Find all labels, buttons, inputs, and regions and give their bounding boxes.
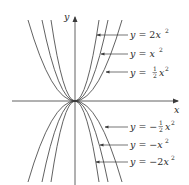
svg-text:2: 2 [159, 46, 163, 53]
svg-text:y = −: y = − [129, 121, 157, 132]
svg-text:1: 1 [159, 119, 163, 126]
label-half-x2: y = 1 2 x 2 [129, 65, 169, 79]
y-axis-label: y [63, 11, 70, 22]
label-x2: y = x 2 [129, 46, 163, 59]
svg-text:y = 2x: y = 2x [129, 29, 161, 40]
svg-text:2: 2 [165, 65, 169, 72]
svg-text:1: 1 [153, 65, 157, 72]
svg-text:y = −x: y = −x [129, 139, 163, 150]
svg-text:2: 2 [165, 137, 169, 144]
parabola-family-diagram: x y y = 2x 2 y = x 2 y = 1 2 x 2 y = − 1… [0, 0, 189, 185]
svg-text:2: 2 [165, 27, 169, 34]
x-axis-label: x [174, 104, 180, 115]
svg-text:2: 2 [153, 72, 157, 79]
svg-text:2: 2 [171, 119, 175, 126]
svg-text:2: 2 [171, 154, 175, 161]
svg-text:y = −2x: y = −2x [129, 156, 169, 167]
svg-text:y =: y = [129, 67, 146, 78]
label-neg-2x2: y = −2x 2 [129, 154, 175, 167]
label-neg-half-x2: y = − 1 2 x 2 [129, 119, 175, 133]
diagram-canvas: x y y = 2x 2 y = x 2 y = 1 2 x 2 y = − 1… [0, 0, 189, 185]
svg-text:2: 2 [159, 126, 163, 133]
label-2x2: y = 2x 2 [129, 27, 169, 40]
label-neg-x2: y = −x 2 [129, 137, 169, 150]
svg-text:y = x: y = x [129, 48, 155, 59]
